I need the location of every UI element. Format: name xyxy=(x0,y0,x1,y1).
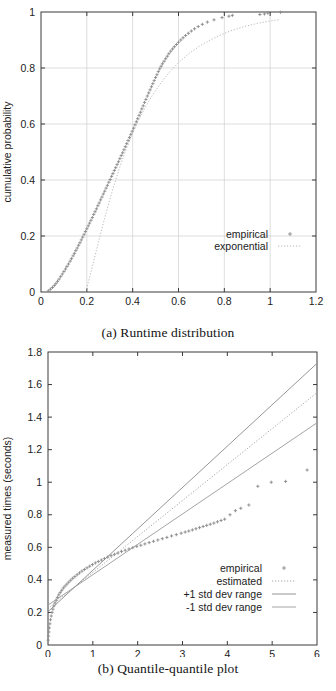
data-point xyxy=(144,98,147,101)
data-point xyxy=(94,561,97,564)
y-tick-label: 0 xyxy=(36,639,42,651)
data-point xyxy=(146,94,149,97)
data-point xyxy=(59,275,62,278)
x-tick-label: 0.2 xyxy=(80,295,95,307)
data-point xyxy=(78,571,81,574)
y-tick-label: 1 xyxy=(36,476,42,488)
data-point xyxy=(47,634,50,637)
data-point xyxy=(150,85,153,88)
data-point xyxy=(115,163,118,166)
data-point xyxy=(120,154,123,157)
quantile-quantile-chart: 012345600.20.40.60.811.21.41.61.8exponen… xyxy=(0,345,336,657)
data-point xyxy=(165,536,168,539)
data-point xyxy=(50,614,53,617)
data-point xyxy=(171,47,174,50)
data-point xyxy=(169,50,172,53)
data-point xyxy=(103,190,106,193)
data-point xyxy=(306,468,309,471)
data-point xyxy=(76,573,79,576)
data-point xyxy=(142,104,145,107)
data-point xyxy=(47,639,50,642)
data-point xyxy=(175,43,178,46)
data-point xyxy=(247,503,250,506)
data-point xyxy=(194,527,197,530)
x-tick-label: 1 xyxy=(90,648,96,657)
data-point xyxy=(143,101,146,104)
x-axis-title: time to target solution value (seconds) xyxy=(90,310,267,312)
data-point xyxy=(187,529,190,532)
data-point xyxy=(181,36,184,39)
data-point xyxy=(83,568,86,571)
data-point xyxy=(161,537,164,540)
data-point xyxy=(53,284,56,287)
data-point xyxy=(58,278,61,281)
data-point xyxy=(231,14,234,17)
data-point xyxy=(117,160,120,163)
data-point xyxy=(258,13,261,16)
data-point xyxy=(65,583,68,586)
data-point xyxy=(111,172,114,175)
data-point xyxy=(166,55,169,58)
figure-runtime-distribution: 00.20.40.60.811.200.20.40.60.81time to t… xyxy=(0,0,336,345)
legend-marker xyxy=(288,232,292,236)
data-point xyxy=(80,569,83,572)
data-point xyxy=(220,16,223,19)
data-point xyxy=(67,262,70,265)
data-point xyxy=(104,187,107,190)
y-tick-label: 0.4 xyxy=(27,573,42,585)
data-point xyxy=(51,286,54,289)
series-line xyxy=(48,363,317,611)
x-tick-label: 0.8 xyxy=(217,295,232,307)
data-point xyxy=(284,480,287,483)
data-point xyxy=(140,107,143,110)
series-line xyxy=(48,423,317,605)
data-point xyxy=(71,577,74,580)
data-point xyxy=(80,238,83,241)
data-point xyxy=(131,130,134,133)
data-point xyxy=(212,18,215,21)
data-point xyxy=(191,528,194,531)
x-tick-label: 0.4 xyxy=(125,295,140,307)
data-point xyxy=(193,27,196,30)
data-point xyxy=(62,270,65,273)
data-point xyxy=(219,519,222,522)
x-tick-label: 2 xyxy=(135,648,141,657)
data-point xyxy=(139,111,142,114)
data-point xyxy=(157,70,160,73)
x-tick-label: 0 xyxy=(45,648,51,657)
data-point xyxy=(91,216,94,219)
data-point xyxy=(97,560,100,563)
y-tick-label: 1 xyxy=(29,6,35,18)
x-tick-label: 0 xyxy=(38,295,44,307)
x-tick-label: 1 xyxy=(267,295,273,307)
y-tick-label: 0.6 xyxy=(27,541,42,553)
legend-marker xyxy=(282,566,286,570)
data-point xyxy=(239,507,242,510)
data-point xyxy=(118,157,121,160)
y-tick-label: 1.2 xyxy=(27,443,42,455)
x-tick-label: 4 xyxy=(224,648,230,657)
data-point xyxy=(180,532,183,535)
data-point xyxy=(205,524,208,527)
data-point xyxy=(153,79,156,82)
x-tick-label: 0.6 xyxy=(171,295,186,307)
data-point xyxy=(95,207,98,210)
data-point xyxy=(256,485,259,488)
data-point xyxy=(82,233,85,236)
y-axis-title: cumulative probability xyxy=(1,101,13,203)
legend-label: estimated xyxy=(216,575,262,587)
y-tick-label: 1.6 xyxy=(27,378,42,390)
data-point xyxy=(63,584,66,587)
legend-label: +1 std dev range xyxy=(183,588,262,600)
data-point xyxy=(234,509,237,512)
data-point xyxy=(96,204,99,207)
legend-label: -1 std dev range xyxy=(186,601,262,613)
data-point xyxy=(167,52,170,55)
y-tick-label: 0.8 xyxy=(20,62,35,74)
series-line xyxy=(48,393,317,609)
legend-label: empirical xyxy=(226,228,268,240)
data-point xyxy=(88,222,91,225)
data-point xyxy=(198,526,201,529)
data-point xyxy=(156,538,159,541)
data-point xyxy=(187,32,190,35)
